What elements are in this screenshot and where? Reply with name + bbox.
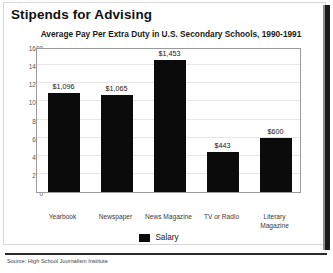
plot-area: $1,096$1,065$1,453$443$600	[36, 48, 301, 193]
x-axis-label-line: Newspaper	[89, 212, 142, 221]
legend-label-salary: Salary	[155, 233, 178, 242]
bar-value-label: $1,453	[159, 49, 181, 58]
bar-slot: $1,453	[143, 49, 196, 192]
bar-value-label: $443	[215, 141, 231, 150]
x-axis-label-line: TV or Radio	[195, 212, 248, 221]
bar-slot: $1,065	[90, 49, 143, 192]
scan-edge-artifact	[325, 5, 330, 250]
bar-slot: $600	[249, 49, 302, 192]
bar-value-label: $1,096	[53, 82, 75, 91]
bar-value-label: $1,065	[106, 84, 128, 93]
x-axis-label: TV or Radio	[195, 212, 248, 221]
chart-legend: Salary	[0, 233, 318, 242]
bar-slot: $443	[196, 49, 249, 192]
scanned-page: Stipends for Advising Average Pay Per Ex…	[0, 0, 333, 273]
bar[interactable]	[207, 152, 239, 192]
bar-series-salary: $1,096$1,065$1,453$443$600	[37, 49, 300, 192]
source-note: Source: High School Journalism Institute	[7, 258, 108, 264]
bar[interactable]	[260, 138, 292, 192]
x-axis-label-line: News Magazine	[142, 212, 195, 221]
chart-title: Stipends for Advising	[11, 7, 152, 22]
bar[interactable]	[101, 95, 133, 192]
source-divider	[5, 253, 327, 255]
x-axis-label: Yearbook	[36, 212, 89, 221]
x-axis-label-line: Magazine	[248, 221, 301, 230]
bar-value-label: $600	[268, 127, 284, 136]
bar-slot: $1,096	[37, 49, 90, 192]
bar-chart: 02004006008001000120014001600 $1,096$1,0…	[9, 44, 309, 209]
scan-edge-artifact-soft	[323, 5, 325, 250]
chart-subtitle: Average Pay Per Extra Duty in U.S. Secon…	[37, 29, 305, 39]
x-axis-label: LiteraryMagazine	[248, 212, 301, 230]
x-axis-label-line: Literary	[248, 212, 301, 221]
bar[interactable]	[48, 93, 80, 192]
legend-swatch-salary	[139, 234, 150, 242]
bar[interactable]	[154, 60, 186, 192]
x-axis-label: Newspaper	[89, 212, 142, 221]
x-axis-label: News Magazine	[142, 212, 195, 221]
x-axis-label-line: Yearbook	[36, 212, 89, 221]
